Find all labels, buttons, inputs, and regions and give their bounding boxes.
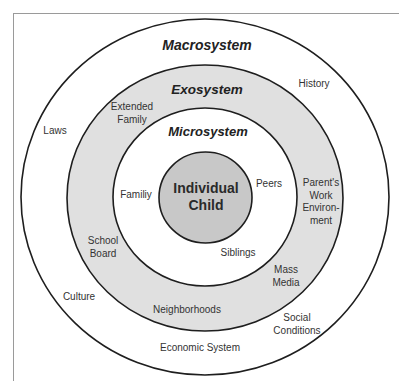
- center-line-1: Individual: [173, 180, 238, 197]
- label-parents-work-environment: Parent's Work Environ- ment: [302, 177, 339, 227]
- school-line-1: School: [88, 235, 119, 248]
- label-mass-media: Mass Media: [272, 264, 299, 289]
- social-line-2: Conditions: [273, 325, 320, 338]
- label-neighborhoods: Neighborhoods: [153, 304, 221, 317]
- label-family: Familiy: [120, 189, 152, 202]
- parents-line-3: Environ-: [302, 202, 339, 215]
- parents-line-4: ment: [302, 215, 339, 228]
- parents-line-1: Parent's: [302, 177, 339, 190]
- label-social-conditions: Social Conditions: [273, 312, 320, 337]
- center-line-2: Child: [173, 197, 238, 214]
- label-laws: Laws: [43, 125, 66, 138]
- label-economic-system: Economic System: [160, 342, 240, 355]
- mass-line-2: Media: [272, 277, 299, 290]
- parents-line-2: Work: [302, 190, 339, 203]
- label-school-board: School Board: [88, 235, 119, 260]
- mass-line-1: Mass: [272, 264, 299, 277]
- extended-line-2: Family: [111, 114, 153, 127]
- extended-line-1: Extended: [111, 101, 153, 114]
- label-history: History: [298, 78, 329, 91]
- social-line-1: Social: [273, 312, 320, 325]
- school-line-2: Board: [88, 248, 119, 261]
- individual-child-label: Individual Child: [173, 180, 238, 214]
- microsystem-title: Microsystem: [168, 124, 247, 139]
- label-peers: Peers: [256, 178, 282, 191]
- exosystem-title: Exosystem: [171, 82, 242, 97]
- label-siblings: Siblings: [220, 247, 255, 260]
- label-extended-family: Extended Family: [111, 101, 153, 126]
- macrosystem-title: Macrosystem: [162, 37, 252, 53]
- label-culture: Culture: [63, 291, 95, 304]
